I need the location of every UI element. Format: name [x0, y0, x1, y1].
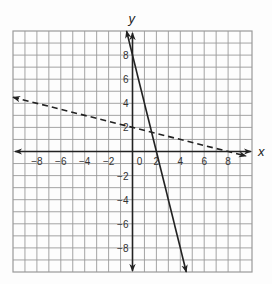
y-tick-label: 4 [123, 98, 129, 109]
line-graph: −8−6−4−2024688642−2−4−6−8 x y [0, 0, 272, 284]
y-tick-label: −6 [117, 219, 129, 230]
x-tick-label: −2 [103, 156, 115, 167]
x-tick-label: −6 [55, 156, 67, 167]
y-tick-label: 6 [123, 74, 129, 85]
x-tick-label: 6 [201, 156, 207, 167]
x-tick-label: −4 [79, 156, 91, 167]
x-tick-label: 0 [137, 156, 143, 167]
y-tick-label: 2 [123, 122, 129, 133]
axes [15, 33, 251, 271]
x-tick-label: 8 [225, 156, 231, 167]
dashed-line [13, 97, 246, 156]
y-tick-label: 8 [123, 50, 129, 61]
y-tick-label: −2 [117, 171, 129, 182]
x-axis-label: x [257, 144, 265, 159]
y-axis-label: y [128, 11, 137, 26]
x-tick-label: 4 [178, 156, 184, 167]
coordinate-plane: −8−6−4−2024688642−2−4−6−8 x y [0, 0, 272, 284]
y-tick-label: −8 [117, 243, 129, 254]
x-tick-label: −8 [31, 156, 43, 167]
y-tick-label: −4 [117, 195, 129, 206]
